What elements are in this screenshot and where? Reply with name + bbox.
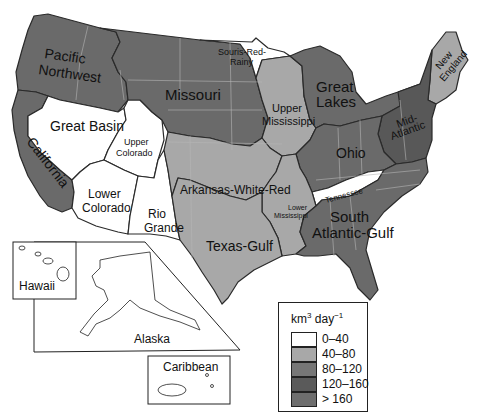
legend-label: 120–160	[322, 377, 369, 391]
label-souris-red-rainy-2: Rainy	[230, 57, 254, 67]
alaska-label: Alaska	[134, 332, 170, 346]
label-arkansas-white-red: Arkansas-White-Red	[180, 183, 291, 197]
legend-swatch	[291, 347, 317, 362]
hawaii-inset: Hawaii	[13, 242, 76, 299]
label-lower-mississippi-1: Lower	[288, 204, 308, 211]
label-great-lakes-2: Lakes	[316, 93, 356, 110]
label-lower-colorado-2: Colorado	[82, 201, 131, 215]
legend-item: > 160	[291, 391, 352, 407]
legend-label: 0–40	[322, 332, 349, 346]
label-rio-grande-1: Rio	[148, 207, 166, 221]
label-upper-colorado-2: Colorado	[116, 148, 153, 158]
label-south-atlantic-gulf-1: South	[330, 208, 369, 225]
label-rio-grande-2: Grande	[144, 221, 184, 235]
label-great-basin: Great Basin	[50, 118, 124, 134]
legend-label: > 160	[322, 392, 352, 406]
label-ohio: Ohio	[336, 145, 366, 161]
legend-item: 40–80	[291, 346, 355, 362]
legend-swatch	[291, 377, 317, 392]
legend-item: 80–120	[291, 361, 362, 377]
label-upper-mississippi-1: Upper	[272, 102, 302, 114]
label-texas-gulf: Texas-Gulf	[206, 238, 273, 254]
label-souris-red-rainy-1: Souris-Red-	[218, 47, 266, 57]
label-south-atlantic-gulf-2: Atlantic-Gulf	[312, 224, 395, 241]
legend-swatch	[291, 392, 317, 407]
legend-swatch	[291, 332, 317, 347]
legend-label: 40–80	[322, 347, 355, 361]
caribbean-inset: Caribbean	[148, 356, 230, 404]
legend-label: 80–120	[322, 362, 362, 376]
label-missouri: Missouri	[165, 86, 221, 103]
legend-item: 0–40	[291, 331, 349, 347]
legend: km3 day−1 0–40 40–80 80–120 120–160 > 16…	[278, 302, 368, 412]
legend-title: km3 day−1	[291, 311, 343, 326]
hawaii-label: Hawaii	[19, 279, 55, 293]
legend-item: 120–160	[291, 376, 369, 392]
label-upper-colorado-1: Upper	[124, 137, 149, 147]
label-lower-mississippi-2: Mississippi	[274, 212, 308, 220]
label-upper-mississippi-2: Mississippi	[262, 115, 315, 127]
legend-swatch	[291, 362, 317, 377]
label-lower-colorado-1: Lower	[88, 187, 121, 201]
caribbean-label: Caribbean	[163, 360, 218, 374]
us-water-regions-map: Pacific Northwest Missouri Souris-Red- R…	[0, 0, 482, 413]
